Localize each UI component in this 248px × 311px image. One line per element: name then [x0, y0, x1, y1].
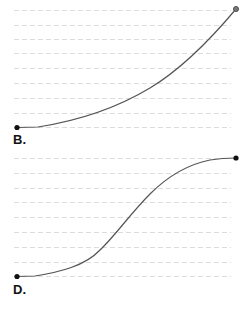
chart-d-start-dot	[14, 274, 19, 279]
chart-d-label: D.	[13, 282, 26, 297]
chart-panel-b: B.	[0, 0, 248, 150]
chart-d-end-dot	[233, 155, 238, 160]
chart-b-gridlines	[14, 11, 231, 128]
chart-d-gridlines	[14, 159, 231, 277]
chart-panel-d: D.	[0, 148, 248, 311]
chart-b-end-dot	[233, 6, 238, 11]
chart-b-plot	[0, 0, 248, 150]
chart-d-plot	[0, 148, 248, 311]
chart-b-start-dot	[14, 125, 19, 130]
chart-b-label: B.	[13, 132, 26, 147]
